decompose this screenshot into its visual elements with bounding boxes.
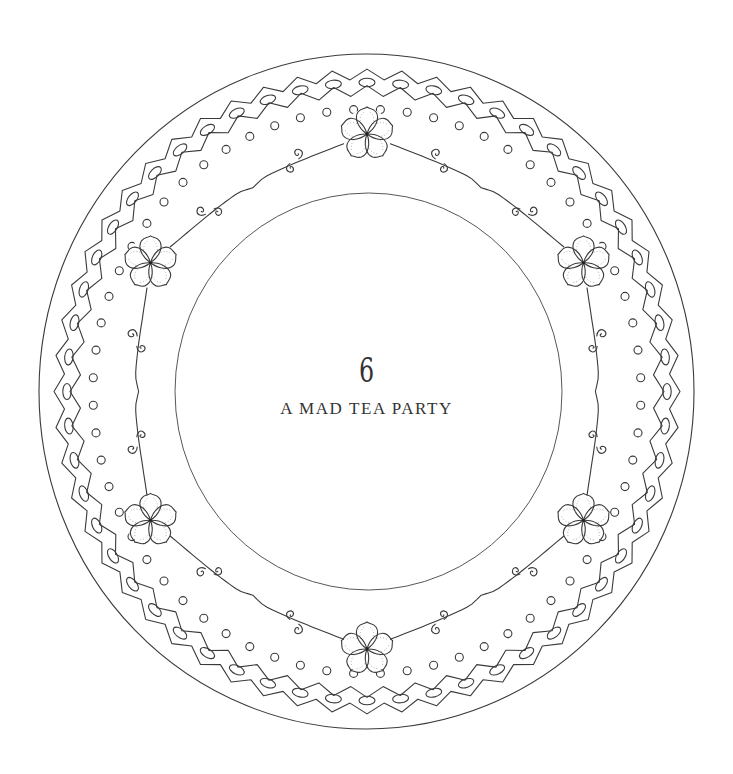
- dot-ring: [89, 106, 644, 678]
- flower-icon: [338, 107, 396, 162]
- scalloped-frame: [125, 134, 610, 649]
- inner-circle: [175, 193, 562, 590]
- flower-icon: [338, 622, 396, 677]
- flowers: [122, 107, 613, 677]
- diamond-chain-band: [54, 69, 680, 714]
- chapter-number: 6: [110, 352, 623, 388]
- flower-icon: [122, 236, 180, 291]
- flower-icon: [555, 236, 613, 291]
- chapter-title: A MAD TEA PARTY: [0, 400, 733, 418]
